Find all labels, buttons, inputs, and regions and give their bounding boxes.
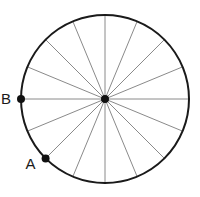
spoke-line bbox=[46, 99, 105, 158]
points-group: BA bbox=[1, 90, 50, 172]
point-a-label: A bbox=[26, 155, 36, 172]
spoke-line bbox=[46, 40, 105, 99]
point-b-label: B bbox=[1, 90, 11, 107]
point-b-marker bbox=[17, 95, 25, 103]
spoke-line bbox=[105, 99, 164, 158]
point-a-marker bbox=[42, 154, 50, 162]
wheel-diagram: BA bbox=[0, 0, 200, 197]
spoke-line bbox=[105, 40, 164, 99]
center-point bbox=[101, 95, 109, 103]
